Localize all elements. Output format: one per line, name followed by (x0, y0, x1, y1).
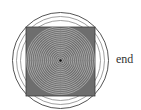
center-dot (59, 59, 61, 61)
end-label: end (116, 52, 133, 66)
